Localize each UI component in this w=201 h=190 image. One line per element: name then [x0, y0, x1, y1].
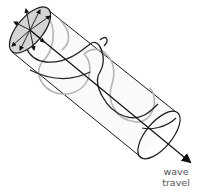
cylinder-wave-diagram [0, 0, 201, 190]
label-line-2: travel [156, 177, 196, 188]
label-line-1: wave [156, 166, 196, 177]
wave-travel-arrow [30, 30, 190, 162]
wave-travel-label: wave travel [156, 166, 196, 188]
